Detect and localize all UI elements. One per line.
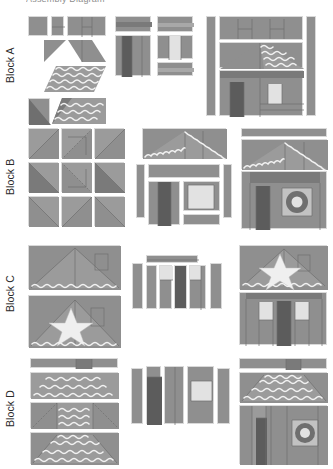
- block-a-stage-subunits: [115, 16, 195, 92]
- block-b-stage-subunits: [136, 128, 232, 232]
- row-label-block-a: Block A: [4, 61, 16, 83]
- block-c-stage-finished: [239, 245, 327, 345]
- block-row-d: Block D: [0, 358, 333, 468]
- block-d-stage-units: [28, 358, 120, 466]
- block-b-stage-finished: [241, 128, 327, 232]
- block-a-stage-units: [28, 16, 106, 124]
- row-label-block-d: Block D: [4, 405, 16, 427]
- assembly-diagram-page: Assembly Diagram Block A: [0, 0, 333, 469]
- block-d-stage-subunits: [131, 366, 231, 426]
- row-label-block-b: Block B: [4, 173, 16, 195]
- block-a-stage-finished: [206, 16, 316, 124]
- block-c-stage-units: [28, 245, 120, 347]
- block-row-a: Block A: [0, 14, 333, 126]
- block-b-stage-units: [28, 128, 126, 228]
- block-row-b: Block B: [0, 128, 333, 238]
- block-d-stage-finished: [239, 358, 327, 464]
- row-label-block-c: Block C: [4, 290, 16, 312]
- page-caption: Assembly Diagram: [26, 0, 316, 4]
- block-row-c: Block C: [0, 243, 333, 351]
- block-c-stage-subunits: [132, 255, 230, 313]
